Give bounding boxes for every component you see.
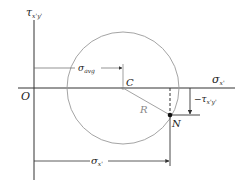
origin-label: O — [21, 90, 30, 103]
mohr-circle-diagram: τx'y' O σx' σavg C R N −τx'y' σx' — [0, 0, 235, 182]
sigma-avg-label: σavg — [78, 63, 95, 75]
center-label: C — [126, 77, 134, 88]
point-n — [168, 113, 173, 118]
point-n-label: N — [171, 118, 182, 129]
radius-label: R — [139, 104, 148, 115]
neg-tau-label: −τx'y' — [194, 94, 217, 106]
tau-axis-label: τx'y' — [26, 6, 43, 20]
sigma-axis-label: σx' — [212, 73, 225, 86]
sigma-x-label: σx' — [91, 155, 103, 167]
